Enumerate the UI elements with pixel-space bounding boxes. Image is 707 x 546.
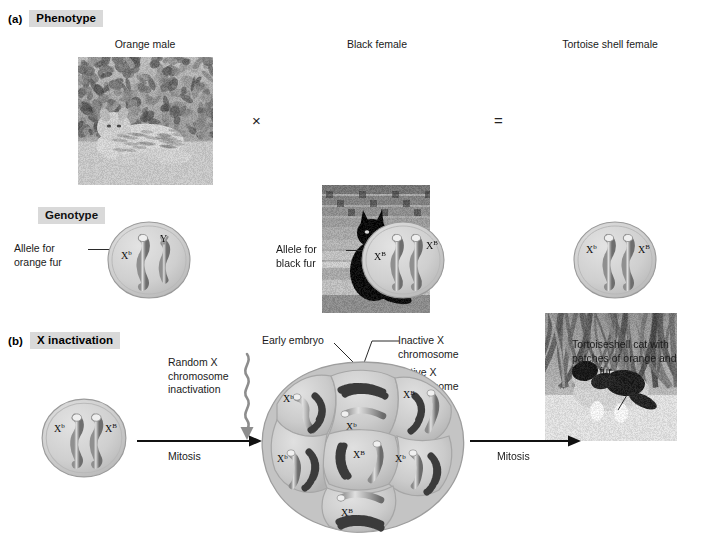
male-cell-label-x-left: Xb [121,249,132,261]
female-cell-label-x-left: XB [374,250,386,262]
zygote-cell: Xb XB [38,396,130,480]
female-genotype-cell: XB XB [358,219,448,301]
cross-operator: × [252,112,261,129]
leader-result-caption [616,380,638,412]
label-mitosis-right: Mitosis [497,450,530,464]
female-cell-label-x-right: XB [426,239,438,251]
equals-operator: = [494,112,503,129]
section-header-phenotype: (a) Phenotype [8,10,103,27]
label-mitosis-left: Mitosis [168,450,201,464]
section-tag-b: (b) [8,335,23,347]
zygote-label-x-right: XB [105,422,117,434]
section-title-phenotype: Phenotype [29,10,103,27]
zygote-label-x-left: Xb [54,422,65,434]
caption-black-female: Black female [287,38,467,52]
early-embryo-cluster: Xb Xb XB XB Xb Xb XB [253,358,475,536]
tortoise-cell-svg [570,219,660,301]
caption-tortoise-shell-female: Tortoise shell female [520,38,700,52]
male-cell-label-y: Y [160,232,167,244]
female-cell-svg [358,219,448,301]
tortoise-cell-label-x-right: XB [638,243,650,255]
tortoise-cell-label-x-left: Xb [586,243,597,255]
caption-orange-male: Orange male [55,38,235,52]
section-header-genotype: Genotype [38,207,105,224]
tortoiseshell-genotype-cell: Xb XB [570,219,660,301]
label-early-embryo: Early embryo [262,334,324,348]
annotation-allele-orange-fur: Allele for orange fur [14,242,90,269]
section-title-x-inactivation: X inactivation [30,332,120,349]
male-genotype-cell: Xb Y [104,219,194,301]
caption-tortoiseshell-result: Tortoiseshell cat with patches of orange… [572,338,700,379]
orange-cat-photo [78,57,213,185]
section-tag-a: (a) [8,13,22,25]
male-cell-svg [104,219,194,301]
mitosis-arrow-right-icon [470,434,582,448]
label-inactive-x-chromosome: Inactive X chromosome [398,334,482,361]
section-header-x-inactivation: (b) X inactivation [8,332,120,349]
zygote-cell-svg [38,396,130,480]
mitosis-arrow-left-icon [137,434,263,448]
annotation-allele-black-fur: Allele for black fur [276,243,348,270]
